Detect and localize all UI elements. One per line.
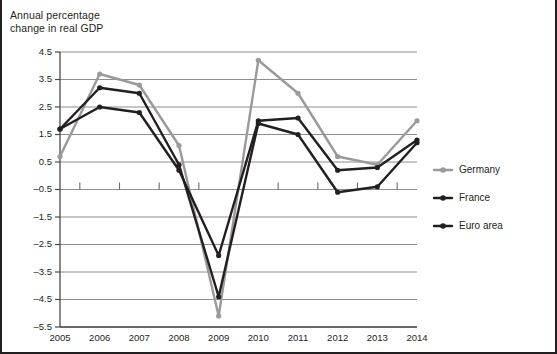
x-tick-label: 2014: [406, 332, 427, 343]
legend-swatch-marker: [440, 167, 446, 173]
legend-label: Euro area: [459, 220, 503, 231]
x-tick-label: 2009: [208, 332, 229, 343]
y-tick-label: –3.5: [34, 266, 53, 277]
y-axis-ticks: 4.53.52.51.50.5–0.5–1.5–2.5–3.5–4.5–5.5: [34, 46, 61, 332]
y-tick-label: –2.5: [34, 238, 53, 249]
data-point-france: [137, 110, 142, 115]
x-tick-label: 2007: [129, 332, 150, 343]
chart-svg: 4.53.52.51.50.5–0.5–1.5–2.5–3.5–4.5–5.5 …: [2, 0, 557, 354]
chart-legend: GermanyFranceEuro area: [434, 164, 503, 231]
y-tick-label: –1.5: [34, 211, 53, 222]
chart-plot-area: 4.53.52.51.50.5–0.5–1.5–2.5–3.5–4.5–5.5 …: [2, 0, 557, 354]
data-point-euro-area: [335, 190, 340, 195]
data-point-euro-area: [216, 294, 221, 299]
y-tick-label: –5.5: [34, 321, 53, 332]
y-tick-label: 4.5: [39, 46, 52, 57]
x-tick-label: 2008: [168, 332, 189, 343]
data-point-euro-area: [256, 121, 261, 126]
data-point-euro-area: [414, 140, 419, 145]
chart-figure-frame: Annual percentage change in real GDP 4.5…: [0, 0, 557, 354]
data-point-germany: [176, 143, 181, 148]
data-point-euro-area: [375, 184, 380, 189]
data-point-france: [375, 165, 380, 170]
data-point-germany: [57, 154, 62, 159]
y-tick-label: –0.5: [34, 183, 53, 194]
x-tick-label: 2010: [248, 332, 269, 343]
data-point-euro-area: [176, 162, 181, 167]
data-point-germany: [256, 58, 261, 63]
data-point-germany: [414, 118, 419, 123]
y-tick-label: 1.5: [39, 128, 52, 139]
legend-swatch-marker: [440, 223, 446, 229]
data-series-group: [57, 58, 419, 319]
legend-swatch-marker: [440, 195, 446, 201]
y-tick-label: –4.5: [34, 293, 53, 304]
data-point-france: [216, 253, 221, 258]
x-tick-label: 2011: [288, 332, 308, 343]
data-point-france: [295, 115, 300, 120]
legend-label: Germany: [459, 164, 500, 175]
data-point-france: [335, 168, 340, 173]
data-point-germany: [335, 154, 340, 159]
data-point-euro-area: [57, 126, 62, 131]
x-tick-label: 2013: [367, 332, 388, 343]
data-point-euro-area: [97, 85, 102, 90]
data-point-euro-area: [137, 91, 142, 96]
y-tick-label: 2.5: [39, 101, 52, 112]
data-point-france: [97, 104, 102, 109]
x-tick-label: 2005: [49, 332, 70, 343]
x-tick-label: 2006: [89, 332, 110, 343]
data-point-germany: [295, 91, 300, 96]
data-point-germany: [97, 71, 102, 76]
data-point-euro-area: [295, 132, 300, 137]
data-point-germany: [137, 82, 142, 87]
x-tick-label: 2012: [327, 332, 348, 343]
y-tick-label: 0.5: [39, 156, 52, 167]
x-axis-ticks: 2005200620072008200920102011201220132014: [49, 332, 427, 343]
legend-label: France: [459, 192, 491, 203]
y-tick-label: 3.5: [39, 73, 52, 84]
data-point-germany: [216, 313, 221, 318]
